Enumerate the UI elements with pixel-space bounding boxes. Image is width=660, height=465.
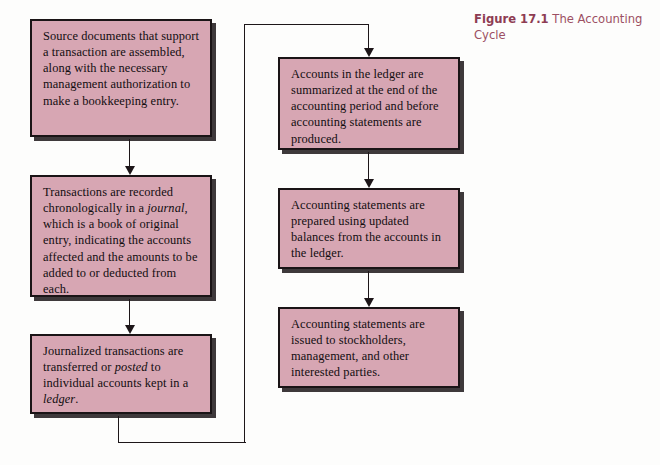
italic-term-ledger: ledger xyxy=(43,392,75,406)
connector-down-into-box4 xyxy=(368,24,369,49)
flow-box-3-text: Journalized transactions are transferred… xyxy=(43,343,201,408)
connector-box4-to-box5 xyxy=(368,152,369,180)
arrowhead-box2-inlet xyxy=(125,166,135,175)
arrowhead-box6-inlet xyxy=(364,298,374,307)
flow-box-source-documents: Source documents that support a transact… xyxy=(30,19,212,137)
italic-term-journal: journal xyxy=(147,201,184,215)
flow-box-issue-statements: Accounting statements are issued to stoc… xyxy=(278,307,460,388)
figure-caption-label: Figure 17.1 xyxy=(474,12,549,26)
figure-caption: Figure 17.1 The Accounting Cycle xyxy=(474,12,652,44)
flow-box-prepare-statements: Accounting statements are prepared using… xyxy=(278,188,460,269)
flow-box-6-text: Accounting statements are issued to stoc… xyxy=(291,316,449,381)
figure-accounting-cycle: Source documents that support a transact… xyxy=(0,0,660,465)
flow-box-5-text: Accounting statements are prepared using… xyxy=(291,197,449,262)
flow-box-2-text: Transactions are recorded chronologicall… xyxy=(43,184,201,297)
flow-box-posting-to-ledger: Journalized transactions are transferred… xyxy=(30,334,212,414)
connector-middle-riser xyxy=(244,24,245,443)
flow-box-journal-entry: Transactions are recorded chronologicall… xyxy=(30,175,212,297)
connector-box3-outlet-down xyxy=(118,416,119,443)
italic-term-posted: posted xyxy=(115,360,148,374)
connector-box2-to-box3 xyxy=(129,299,130,326)
arrowhead-box4-inlet xyxy=(364,48,374,57)
connector-box5-to-box6 xyxy=(368,271,369,299)
arrowhead-box5-inlet xyxy=(364,179,374,188)
connector-box1-to-box2 xyxy=(129,139,130,167)
flow-box-4-text: Accounts in the ledger are summarized at… xyxy=(291,66,449,147)
connector-bottom-run-right xyxy=(118,442,246,443)
connector-top-run-right xyxy=(244,24,369,25)
flow-box-summarize-ledger: Accounts in the ledger are summarized at… xyxy=(278,57,460,150)
flow-box-1-text: Source documents that support a transact… xyxy=(43,28,201,109)
arrowhead-box3-inlet xyxy=(125,325,135,334)
